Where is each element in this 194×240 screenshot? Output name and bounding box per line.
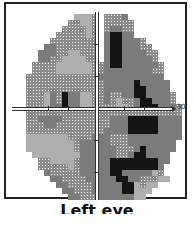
field-cell [176, 134, 182, 140]
tick-mark [94, 140, 99, 141]
field-cell [164, 158, 170, 164]
field-cell [152, 182, 158, 188]
field-cell [140, 194, 146, 200]
tick-mark [124, 106, 125, 111]
horizontal-axis [12, 107, 174, 111]
axis-arrow-icon [172, 106, 176, 112]
tick-mark [144, 106, 145, 111]
tick-mark [68, 106, 69, 111]
field-cell [170, 146, 176, 152]
axis-label-30: 30 [177, 103, 185, 111]
field-cell [164, 176, 170, 182]
tick-mark [94, 76, 99, 77]
field-cell [146, 188, 152, 194]
tick-mark [94, 172, 99, 173]
tick-mark [94, 44, 99, 45]
tick-mark [48, 106, 49, 111]
eye-caption: Left eye [0, 203, 194, 214]
